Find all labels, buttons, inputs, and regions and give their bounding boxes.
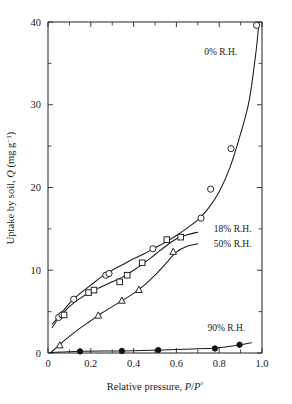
data-point-open-square: [164, 237, 170, 243]
series-curve-0: [52, 24, 259, 324]
data-point-open-circle: [150, 246, 156, 252]
data-point-open-triangle: [119, 297, 126, 303]
y-tick-label: 30: [31, 99, 42, 110]
x-axis-var-1: P: [184, 381, 192, 392]
data-point-open-square: [91, 287, 97, 293]
x-axis-ticks: [48, 22, 262, 353]
data-point-open-circle: [228, 146, 234, 152]
axis-frame: [48, 22, 262, 353]
x-tick-label: 0.6: [170, 358, 183, 369]
x-tick-label: 0.8: [213, 358, 226, 369]
data-point-open-square: [124, 272, 130, 278]
data-point-open-square: [61, 312, 67, 318]
data-point-filled-circle: [237, 342, 242, 347]
data-point-filled-circle: [156, 347, 161, 352]
y-axis-var: Q: [5, 170, 16, 178]
data-point-open-square: [117, 279, 123, 285]
y-tick-label: 40: [31, 17, 42, 28]
plot-frame: [48, 22, 262, 353]
adsorption-isotherm-chart: 010203040 00.20.40.60.81.0 0% R.H.18% R.…: [0, 0, 292, 404]
series-label-50-r-h-: 50% R.H.: [214, 239, 252, 249]
data-point-open-triangle: [170, 248, 177, 254]
x-tick-label: 0.4: [127, 358, 141, 369]
y-tick-label: 20: [31, 182, 42, 193]
y-axis-title: Uptake by soil, Q (mg g−1): [5, 131, 18, 244]
y-axis-ticks: [48, 22, 262, 353]
y-axis-units-close: ): [5, 131, 17, 135]
data-curves: [50, 24, 259, 352]
data-point-open-square: [139, 260, 145, 266]
y-axis-tick-labels: 010203040: [31, 17, 42, 359]
data-point-open-square: [86, 290, 92, 296]
x-axis-superscript: °: [200, 381, 203, 389]
y-tick-label: 10: [31, 265, 42, 276]
figure-container: 010203040 00.20.40.60.81.0 0% R.H.18% R.…: [0, 0, 292, 404]
data-point-filled-circle: [212, 346, 217, 351]
series-label-0-r-h-: 0% R.H.: [204, 47, 237, 57]
data-point-open-circle: [198, 215, 204, 221]
series-label-90-r-h-: 90% R.H.: [207, 323, 245, 333]
x-tick-label: 0: [45, 358, 50, 369]
data-point-filled-circle: [77, 349, 82, 354]
data-point-open-circle: [71, 296, 77, 302]
data-markers: [56, 22, 260, 354]
x-tick-label: 1.0: [255, 358, 268, 369]
data-point-open-circle: [208, 186, 214, 192]
data-point-open-circle: [254, 22, 260, 28]
series-label-18-r-h-: 18% R.H.: [214, 224, 252, 234]
data-point-open-square: [178, 234, 184, 240]
data-point-open-triangle: [95, 312, 102, 318]
series-curve-1: [52, 232, 198, 327]
x-tick-label: 0.2: [84, 358, 97, 369]
y-tick-label: 0: [36, 348, 41, 359]
x-axis-tick-labels: 00.20.40.60.81.0: [45, 358, 268, 369]
x-axis-title: Relative pressure, P/P°: [107, 381, 204, 393]
data-point-filled-circle: [119, 348, 124, 353]
data-point-open-circle: [106, 270, 112, 276]
